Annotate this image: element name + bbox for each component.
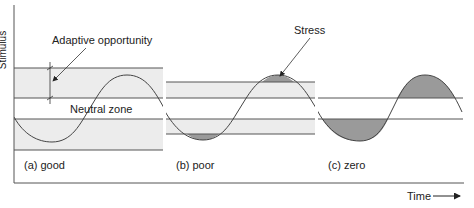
lower-band — [166, 119, 315, 134]
x-axis-label: Time — [407, 190, 431, 202]
stress-area-high — [262, 75, 294, 82]
neutral-zone-label: Neutral zone — [70, 103, 132, 115]
stress-area-high — [397, 75, 455, 98]
upper-band — [166, 82, 315, 98]
adaptive-opportunity-label: Adaptive opportunity — [52, 34, 153, 46]
adaptive-opportunity-diagram: Stimulus Adaptive opportunity Neutral zo… — [0, 0, 474, 208]
panel-c-label: (c) zero — [328, 159, 365, 171]
panel-a: Adaptive opportunity Neutral zone (a) go… — [14, 34, 164, 171]
lower-band — [14, 119, 163, 150]
panel-a-label: (a) good — [24, 159, 65, 171]
stress-area-low — [187, 134, 219, 140]
panel-c: (c) zero — [316, 75, 463, 171]
stress-arrow — [280, 38, 310, 76]
upper-band — [14, 68, 163, 98]
panel-b: Stress (b) poor — [163, 24, 326, 171]
y-axis-label: Stimulus — [0, 31, 8, 69]
stress-label: Stress — [294, 24, 326, 36]
panel-b-label: (b) poor — [176, 159, 215, 171]
